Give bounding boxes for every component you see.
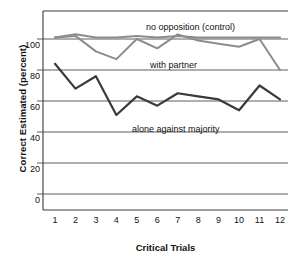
data-series-layer xyxy=(55,34,280,115)
series-label-no-opposition-control: no opposition (control) xyxy=(146,22,235,32)
x-tick-label: 2 xyxy=(65,215,85,225)
series-label-with-partner: with partner xyxy=(150,60,197,70)
x-tick-label: 6 xyxy=(147,215,167,225)
x-tick-label: 8 xyxy=(188,215,208,225)
x-tick-label: 5 xyxy=(127,215,147,225)
x-tick-label: 11 xyxy=(250,215,270,225)
x-axis-title: Critical Trials xyxy=(43,242,288,253)
x-tick-label: 7 xyxy=(168,215,188,225)
x-tick-label: 1 xyxy=(45,215,65,225)
x-tick-label: 3 xyxy=(86,215,106,225)
series-line-alone-against-majority xyxy=(55,64,280,115)
chart-figure: Correct Estimated (percent) 020406080100… xyxy=(0,0,302,263)
x-axis-tick-labels: 123456789101112 xyxy=(0,215,302,229)
series-label-alone-against-majority: alone against majority xyxy=(132,124,220,134)
axis-frame xyxy=(37,11,288,210)
x-tick-label: 10 xyxy=(229,215,249,225)
x-tick-label: 4 xyxy=(106,215,126,225)
x-tick-label: 9 xyxy=(209,215,229,225)
series-line-no-opposition-control- xyxy=(55,34,280,37)
x-tick-label: 12 xyxy=(270,215,290,225)
